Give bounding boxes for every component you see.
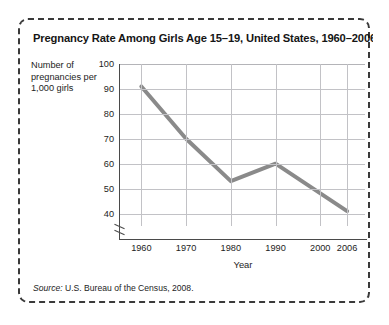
x-tick-label: 1990 [265, 243, 285, 253]
x-axis-tick-labels: 196019701980199020002006 [119, 243, 367, 257]
y-tick-label: 60 [84, 159, 114, 169]
gridline-vertical [186, 64, 187, 226]
x-tick-label: 1980 [221, 243, 241, 253]
x-axis-line [119, 239, 367, 240]
gridline-horizontal [119, 114, 365, 115]
x-tick-label: 2006 [337, 243, 357, 253]
y-tick-label: 70 [84, 134, 114, 144]
source-note-prefix: Source: [33, 283, 63, 293]
gridline-vertical [276, 64, 277, 226]
plot-area [119, 64, 365, 226]
gridline-horizontal [119, 64, 365, 65]
y-axis-tick-labels: 100908070605040 [84, 64, 114, 226]
x-tick-label: 2000 [310, 243, 330, 253]
x-axis-title: Year [119, 259, 367, 270]
source-note: Source: U.S. Bureau of the Census, 2008. [33, 283, 194, 293]
gridline-horizontal [119, 89, 365, 90]
y-tick-label: 90 [84, 84, 114, 94]
gridline-vertical [141, 64, 142, 226]
series-polyline [141, 86, 347, 211]
y-tick-label: 40 [84, 209, 114, 219]
gridline-horizontal [119, 189, 365, 190]
y-tick-label: 80 [84, 109, 114, 119]
x-tick-label: 1960 [131, 243, 151, 253]
x-tick-label: 1970 [176, 243, 196, 253]
gridline-horizontal [119, 164, 365, 165]
source-note-text: U.S. Bureau of the Census, 2008. [63, 283, 194, 293]
chart-title: Pregnancy Rate Among Girls Age 15–19, Un… [33, 31, 373, 45]
gridline-horizontal [119, 139, 365, 140]
gridline-horizontal [119, 214, 365, 215]
y-axis-break-icon [114, 226, 125, 235]
gridline-vertical [320, 64, 321, 226]
figure-container: Pregnancy Rate Among Girls Age 15–19, Un… [0, 0, 389, 325]
gridline-vertical [231, 64, 232, 226]
y-tick-label: 100 [84, 59, 114, 69]
y-tick-label: 50 [84, 184, 114, 194]
y-axis-line [119, 64, 120, 240]
gridline-vertical [347, 64, 348, 226]
